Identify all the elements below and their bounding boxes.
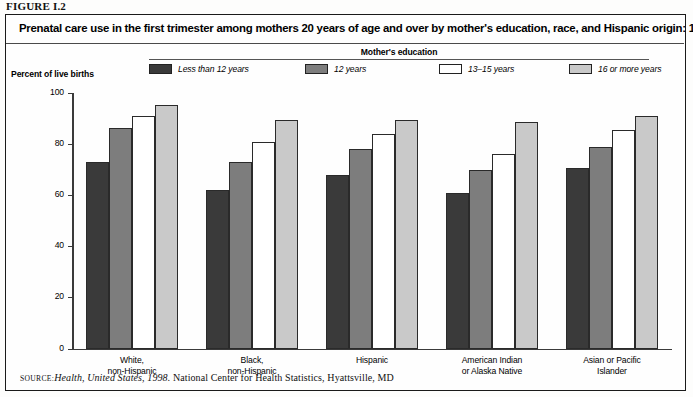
plot-area: Percent of live births 020406080100 Whit… xyxy=(6,15,684,389)
bars-layer xyxy=(72,93,672,349)
bar xyxy=(132,116,155,349)
y-tick-label: 100 xyxy=(36,87,64,97)
group-label-line: Asian or Pacific xyxy=(552,355,672,366)
bar xyxy=(252,142,275,349)
group-label: Asian or PacificIslander xyxy=(552,355,672,376)
group-label-line: White, xyxy=(72,355,192,366)
bar xyxy=(109,128,132,349)
x-axis-line xyxy=(72,349,672,351)
source-note: Source:Health, United States, 1998. Nati… xyxy=(20,372,394,383)
y-tick-label: 20 xyxy=(36,291,64,301)
source-kicker: Source: xyxy=(20,374,54,383)
bar xyxy=(492,154,515,348)
bar xyxy=(635,116,658,349)
bar-group xyxy=(552,93,672,349)
bar xyxy=(612,130,635,348)
bar xyxy=(469,170,492,349)
group-label-line: or Alaska Native xyxy=(432,366,552,377)
group-label-line: Islander xyxy=(552,366,672,377)
bar xyxy=(275,120,298,349)
bar-group xyxy=(192,93,312,349)
y-axis-title: Percent of live births xyxy=(11,69,94,79)
figure-container: FIGURE I.2 Prenatal care use in the firs… xyxy=(0,0,693,397)
bar-group xyxy=(72,93,192,349)
bar xyxy=(515,122,538,348)
bar xyxy=(446,193,469,349)
group-label-line: Hispanic xyxy=(312,355,432,366)
figure-frame: Prenatal care use in the first trimester… xyxy=(5,14,686,391)
y-tick-label: 80 xyxy=(36,138,64,148)
bar xyxy=(86,162,109,349)
bar xyxy=(395,120,418,349)
y-tick-label: 60 xyxy=(36,189,64,199)
group-label: American Indianor Alaska Native xyxy=(432,355,552,376)
y-tick-label: 0 xyxy=(36,343,64,353)
bar xyxy=(372,134,395,349)
source-publisher: National Center for Health Statistics, H… xyxy=(170,372,394,383)
group-label-line: Black, xyxy=(192,355,312,366)
group-label-line: American Indian xyxy=(432,355,552,366)
bar xyxy=(589,147,612,349)
y-tick-mark xyxy=(68,349,72,350)
bar xyxy=(155,105,178,349)
bar-group xyxy=(312,93,432,349)
bar xyxy=(349,149,372,348)
bar xyxy=(229,162,252,349)
bar xyxy=(566,168,589,348)
bar xyxy=(326,175,349,349)
y-tick-label: 40 xyxy=(36,240,64,250)
group-label: Hispanic xyxy=(312,355,432,366)
figure-number-label: FIGURE I.2 xyxy=(6,0,66,12)
bar-group xyxy=(432,93,552,349)
source-publication: Health, United States, 1998. xyxy=(54,372,170,383)
bar xyxy=(206,190,229,348)
